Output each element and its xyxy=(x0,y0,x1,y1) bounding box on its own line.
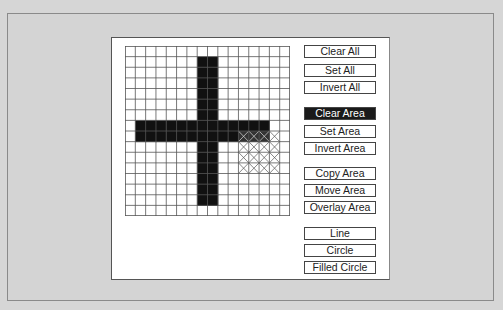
filled-circle-button[interactable]: Filled Circle xyxy=(304,261,376,274)
overlay-area-button[interactable]: Overlay Area xyxy=(304,201,376,214)
set-all-button[interactable]: Set All xyxy=(304,64,376,77)
invert-all-button[interactable]: Invert All xyxy=(304,81,376,94)
copy-area-button[interactable]: Copy Area xyxy=(304,167,376,180)
invert-area-button[interactable]: Invert Area xyxy=(304,142,376,155)
set-area-button[interactable]: Set Area xyxy=(304,125,376,138)
line-button[interactable]: Line xyxy=(304,227,376,240)
bitmap-grid[interactable] xyxy=(125,46,290,216)
clear-area-button[interactable]: Clear Area xyxy=(304,107,376,120)
circle-button[interactable]: Circle xyxy=(304,244,376,257)
clear-all-button[interactable]: Clear All xyxy=(304,45,376,58)
move-area-button[interactable]: Move Area xyxy=(304,184,376,197)
